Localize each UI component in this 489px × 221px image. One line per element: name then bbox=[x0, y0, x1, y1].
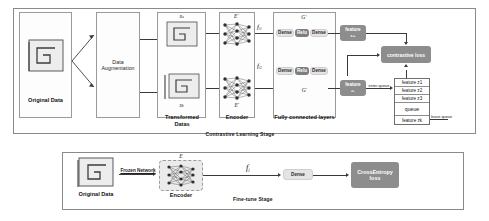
queue-row-last: feature zk bbox=[395, 116, 429, 124]
head-minus-to-feature-line bbox=[328, 88, 340, 89]
mlp-bottom-relu: Relu bbox=[295, 67, 309, 75]
zplus-to-loss-arrow bbox=[404, 42, 408, 45]
dense-to-loss-line bbox=[313, 175, 346, 176]
queue-to-loss-h bbox=[347, 55, 377, 56]
queue-row-2: feature z2 bbox=[395, 87, 429, 95]
feature-z-minus-line2: z- bbox=[351, 88, 355, 94]
finetune-dense-box: Dense bbox=[283, 169, 313, 180]
contrastive-stage-label: Contrastive Learning Stage bbox=[180, 130, 300, 138]
encoder-plus-label: E+ bbox=[219, 12, 255, 20]
mlp-top-relu: Relu bbox=[295, 29, 309, 37]
original-data-spiral-icon bbox=[26, 38, 66, 73]
zplus-to-loss-h bbox=[366, 33, 406, 34]
sample-xb-subscript: b bbox=[182, 104, 184, 108]
queue-to-loss-v bbox=[347, 55, 348, 76]
data-augmentation-label-line2: Augmentation bbox=[101, 65, 134, 72]
augment-to-xb-line bbox=[140, 92, 157, 93]
feature-fi1-subscript: i1 bbox=[259, 27, 262, 31]
encoder-minus-label: E- bbox=[219, 101, 255, 109]
encoder-to-dense-line bbox=[203, 175, 278, 176]
queue-top-connector bbox=[406, 70, 407, 78]
encoder-label: Encoder bbox=[214, 113, 260, 121]
finetune-feature-label: fj bbox=[246, 162, 266, 173]
transformed-data-label-line2: Datas bbox=[150, 120, 214, 128]
sample-xa-label: xa bbox=[157, 12, 206, 20]
encoder-minus-network-icon bbox=[221, 74, 253, 102]
data-augmentation-box: Data Augmentation bbox=[96, 12, 140, 118]
original-data-label: Original Data bbox=[19, 96, 72, 105]
feature-z-plus-line2: z+ bbox=[351, 33, 356, 39]
queue-row-3: feature z3 bbox=[395, 95, 429, 103]
finetune-stage-label: Fine-tune Stage bbox=[233, 196, 303, 204]
leave-queue-label: leave queue bbox=[431, 115, 457, 120]
crossentropy-loss-line2: loss bbox=[370, 175, 381, 181]
queue-row-1: feature z1 bbox=[395, 79, 429, 87]
mlp-top-dense-1: Dense bbox=[276, 29, 294, 37]
encoder-minus-superscript: - bbox=[238, 101, 239, 106]
fully-connected-label: Fully connected layers bbox=[262, 113, 347, 121]
queue-to-loss-arrow bbox=[377, 53, 380, 57]
queue-bottom-to-loss-arrow bbox=[404, 64, 408, 67]
finetune-feature-subscript: j bbox=[248, 167, 249, 172]
xb-to-encoder-line bbox=[206, 88, 219, 89]
encoder-plus-superscript: + bbox=[238, 12, 240, 17]
frozen-network-line bbox=[119, 174, 153, 175]
feature-fi2-subscript: i2 bbox=[259, 66, 262, 70]
sample-xb-label: xb bbox=[157, 101, 206, 109]
contrastive-loss-box: contrastive loss bbox=[381, 46, 431, 63]
head-minus-superscript: - bbox=[306, 86, 307, 91]
diagram-canvas: Contrastive Learning Stage Original Data… bbox=[0, 0, 489, 221]
transformed-xa-spiral-icon bbox=[165, 21, 199, 48]
xa-to-encoder-line bbox=[206, 33, 219, 34]
finetune-original-data-icon bbox=[75, 157, 117, 189]
frozen-network-label: Frozen Network bbox=[118, 168, 158, 174]
crossentropy-loss-box: CrossEntropy loss bbox=[351, 162, 399, 188]
transformed-xb-spiral-icon bbox=[161, 72, 201, 102]
head-minus-label: G- bbox=[273, 86, 336, 94]
fully-connected-panel bbox=[273, 12, 336, 118]
encoder-minus-to-head-line bbox=[255, 88, 273, 89]
feature-z-plus-box: feature z+ bbox=[340, 25, 366, 41]
enter-queue-label: enter queue bbox=[367, 84, 391, 89]
augment-to-xa-line bbox=[140, 39, 157, 40]
feature-z-minus-box: feature z- bbox=[340, 80, 366, 96]
encoder-plus-to-head-line bbox=[255, 33, 273, 34]
finetune-encoder-network-icon bbox=[164, 163, 198, 188]
mlp-bottom-dense-1: Dense bbox=[276, 67, 294, 75]
encoder-plus-network-icon bbox=[221, 20, 253, 48]
dense-to-loss-arrow bbox=[346, 173, 349, 177]
finetune-original-data-label: Original Data bbox=[68, 190, 124, 198]
mlp-bottom-dense-2: Dense bbox=[310, 67, 328, 75]
augment-branch-connector bbox=[72, 30, 96, 92]
head-plus-to-feature-line bbox=[328, 33, 340, 34]
sample-xa-subscript: a bbox=[182, 15, 184, 19]
memory-queue: feature z1 feature z2 feature z3 queue f… bbox=[394, 78, 430, 125]
head-plus-superscript: + bbox=[305, 13, 307, 18]
mlp-top-dense-2: Dense bbox=[310, 29, 328, 37]
finetune-encoder-symbol-label: E bbox=[159, 152, 203, 160]
queue-name-row: queue bbox=[395, 103, 429, 116]
finetune-encoder-label: Encoder bbox=[159, 191, 203, 199]
encoder-to-dense-arrow bbox=[278, 173, 281, 177]
head-plus-label: G+ bbox=[273, 13, 336, 21]
